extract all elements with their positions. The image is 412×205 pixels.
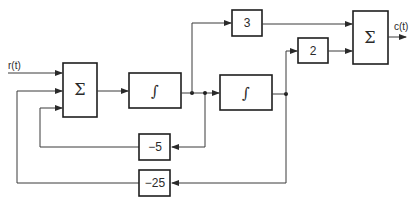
int2-to-gain2-wire: [286, 51, 297, 94]
gain-minus5-block: −5: [139, 134, 170, 160]
block-diagram: r(t) Σ ∫ 3 ∫: [0, 0, 412, 205]
input-label: r(t): [8, 60, 21, 71]
junction-dot: [203, 91, 207, 95]
integral-icon: ∫: [151, 82, 159, 100]
integral-icon: ∫: [242, 84, 250, 102]
gain3-block: 3: [232, 10, 262, 36]
sum1-block: Σ: [63, 63, 97, 117]
sigma-icon: Σ: [364, 28, 375, 47]
sigma-icon: Σ: [74, 80, 85, 99]
output-signal: c(t): [388, 21, 408, 37]
inner-feedback-wire-in: [40, 108, 62, 147]
input-signal: r(t): [8, 60, 62, 73]
gain3-label: 3: [244, 16, 251, 30]
integrator2-block: ∫: [220, 75, 272, 110]
gain2-block: 2: [298, 38, 328, 63]
gain-minus25-label: −25: [145, 176, 166, 190]
integrator1-block: ∫: [129, 73, 181, 108]
sum2-block: Σ: [353, 11, 388, 64]
gain-minus5-label: −5: [148, 140, 162, 154]
gain-minus25-block: −25: [139, 170, 170, 196]
gain2-label: 2: [310, 44, 317, 58]
output-label: c(t): [394, 21, 408, 32]
